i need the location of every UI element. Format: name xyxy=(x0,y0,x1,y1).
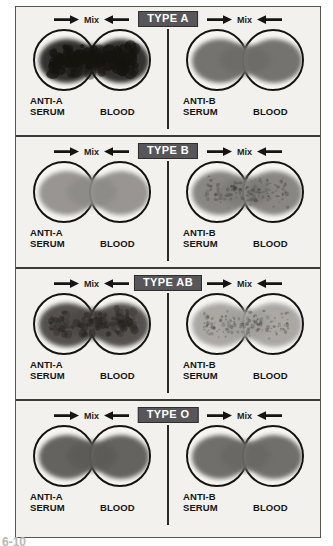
arrow-right-icon xyxy=(207,407,232,425)
serum-caption: ANTI-ASERUM xyxy=(30,491,65,513)
mixed-bridge xyxy=(220,441,270,471)
arrow-right-icon xyxy=(54,275,79,293)
slide-wells xyxy=(33,425,151,487)
mix-label: Mix xyxy=(84,280,99,289)
arrow-right-icon xyxy=(54,11,79,29)
blood-type-badge: TYPE A xyxy=(138,11,198,27)
mix-label: Mix xyxy=(237,280,252,289)
well-captions: ANTI-BSERUMBLOOD xyxy=(169,227,320,255)
serum-name: ANTI-A xyxy=(30,491,63,502)
mixed-bridge xyxy=(67,177,117,207)
blood-type-badge: TYPE AB xyxy=(134,275,202,291)
well-captions: ANTI-BSERUMBLOOD xyxy=(169,359,320,387)
mix-label: Mix xyxy=(84,412,99,421)
arrow-right-icon xyxy=(54,143,79,161)
serum-caption: ANTI-BSERUM xyxy=(183,491,218,513)
mixed-bridge xyxy=(67,45,117,75)
mix-label: Mix xyxy=(237,412,252,421)
mixed-bridge xyxy=(220,309,270,339)
serum-word: SERUM xyxy=(30,370,65,381)
arrow-left-icon xyxy=(257,143,282,161)
serum-caption: ANTI-ASERUM xyxy=(30,359,65,381)
well-captions: ANTI-ASERUMBLOOD xyxy=(16,227,167,255)
arrow-left-icon xyxy=(257,11,282,29)
band-separator xyxy=(16,399,320,401)
blood-caption: BLOOD xyxy=(100,370,135,381)
serum-caption: ANTI-ASERUM xyxy=(30,95,65,117)
serum-name: ANTI-B xyxy=(183,359,216,370)
blood-caption: BLOOD xyxy=(253,106,288,117)
blood-caption: BLOOD xyxy=(100,106,135,117)
blood-caption: BLOOD xyxy=(253,370,288,381)
serum-word: SERUM xyxy=(30,238,65,249)
blood-type-band: TYPE AMixANTI-ASERUMBLOODMixANTI-BSERUMB… xyxy=(16,7,320,139)
blood-type-badge: TYPE O xyxy=(138,407,199,423)
slide-wells xyxy=(33,161,151,223)
blood-type-band: TYPE BMixANTI-ASERUMBLOODMixANTI-BSERUMB… xyxy=(16,139,320,271)
serum-name: ANTI-A xyxy=(30,95,63,106)
mix-label: Mix xyxy=(237,16,252,25)
slide-wells xyxy=(186,29,304,91)
serum-name: ANTI-B xyxy=(183,95,216,106)
serum-caption: ANTI-ASERUM xyxy=(30,227,65,249)
slide-wells xyxy=(186,293,304,355)
well-captions: ANTI-ASERUMBLOOD xyxy=(16,491,167,519)
mix-label: Mix xyxy=(84,16,99,25)
mix-label: Mix xyxy=(237,148,252,157)
blood-caption: BLOOD xyxy=(253,502,288,513)
slide-wells xyxy=(186,425,304,487)
arrow-right-icon xyxy=(54,407,79,425)
arrow-left-icon xyxy=(104,11,129,29)
blood-type-band: TYPE ABMixANTI-ASERUMBLOODMixANTI-BSERUM… xyxy=(16,271,320,403)
blood-type-badge: TYPE B xyxy=(138,143,198,159)
blood-typing-figure: TYPE AMixANTI-ASERUMBLOODMixANTI-BSERUMB… xyxy=(0,0,333,546)
mixed-bridge xyxy=(67,309,117,339)
band-separator xyxy=(16,267,320,269)
arrow-left-icon xyxy=(104,143,129,161)
arrow-right-icon xyxy=(207,275,232,293)
serum-word: SERUM xyxy=(183,106,218,117)
mixed-bridge xyxy=(67,441,117,471)
band-separator xyxy=(16,135,320,137)
well-captions: ANTI-BSERUMBLOOD xyxy=(169,491,320,519)
serum-word: SERUM xyxy=(183,238,218,249)
arrow-right-icon xyxy=(207,143,232,161)
blood-type-band: TYPE OMixANTI-ASERUMBLOODMixANTI-BSERUMB… xyxy=(16,403,320,535)
serum-caption: ANTI-BSERUM xyxy=(183,359,218,381)
serum-word: SERUM xyxy=(30,106,65,117)
arrow-left-icon xyxy=(257,275,282,293)
well-captions: ANTI-ASERUMBLOOD xyxy=(16,359,167,387)
slide-wells xyxy=(33,29,151,91)
mixed-bridge xyxy=(220,177,270,207)
slide-wells xyxy=(33,293,151,355)
well-captions: ANTI-ASERUMBLOOD xyxy=(16,95,167,123)
mix-label: Mix xyxy=(84,148,99,157)
serum-name: ANTI-A xyxy=(30,227,63,238)
arrow-left-icon xyxy=(104,407,129,425)
serum-word: SERUM xyxy=(183,502,218,513)
serum-caption: ANTI-BSERUM xyxy=(183,95,218,117)
serum-name: ANTI-A xyxy=(30,359,63,370)
mixed-bridge xyxy=(220,45,270,75)
arrow-right-icon xyxy=(207,11,232,29)
arrow-left-icon xyxy=(257,407,282,425)
arrow-left-icon xyxy=(104,275,129,293)
blood-typing-plate: TYPE AMixANTI-ASERUMBLOODMixANTI-BSERUMB… xyxy=(15,6,321,538)
blood-caption: BLOOD xyxy=(100,502,135,513)
serum-name: ANTI-B xyxy=(183,227,216,238)
blood-caption: BLOOD xyxy=(253,238,288,249)
serum-name: ANTI-B xyxy=(183,491,216,502)
slide-wells xyxy=(186,161,304,223)
serum-word: SERUM xyxy=(30,502,65,513)
serum-caption: ANTI-BSERUM xyxy=(183,227,218,249)
well-captions: ANTI-BSERUMBLOOD xyxy=(169,95,320,123)
figure-number: 6-10 xyxy=(2,536,26,546)
serum-word: SERUM xyxy=(183,370,218,381)
blood-caption: BLOOD xyxy=(100,238,135,249)
